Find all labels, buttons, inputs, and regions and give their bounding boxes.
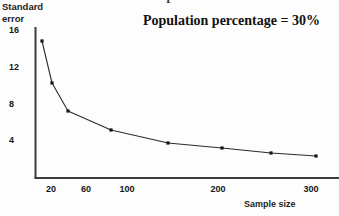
y-tick-label-8: 8 [9,99,14,109]
data-series-line [42,41,316,156]
x-tick-label-100: 100 [119,184,134,194]
data-point-140 [166,141,169,144]
x-tick-label-200: 200 [210,184,225,194]
chart-figure: measures with sample size Standard error… [0,0,339,216]
data-point-255 [269,151,272,154]
axis-lines [35,27,339,179]
y-tick-label-4: 4 [9,135,14,145]
x-tick-label-300: 300 [303,184,318,194]
data-point-20 [50,81,53,84]
data-point-markers [40,39,317,157]
data-point-80 [109,128,112,131]
y-tick-label-12: 12 [9,62,19,72]
data-point-10 [40,39,43,42]
x-tick-label-60: 60 [81,184,91,194]
data-point-200 [220,146,223,149]
x-tick-label-20: 20 [46,184,56,194]
y-tick-label-16: 16 [9,25,19,35]
data-point-310 [314,154,317,157]
data-point-40 [66,109,69,112]
